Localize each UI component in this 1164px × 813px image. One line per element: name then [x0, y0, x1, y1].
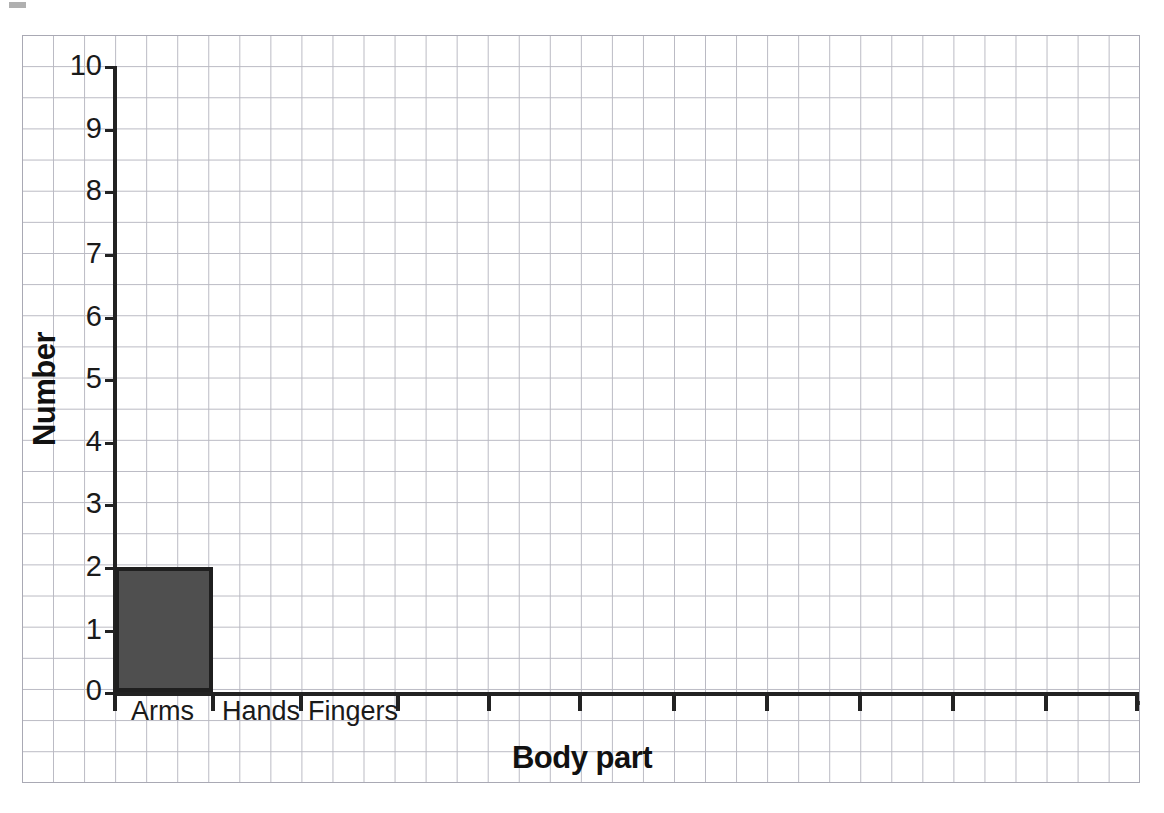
- y-tick-label-8: 8: [56, 176, 102, 205]
- bar-chart: 10 9 8 7 6 5 4 3 2 1 0 Arms Hands Finger…: [0, 0, 1164, 813]
- y-tick-label-0: 0: [56, 676, 102, 705]
- x-tick-8: [858, 694, 862, 711]
- y-axis-title: Number: [27, 304, 63, 474]
- y-tick-9: [105, 129, 114, 132]
- y-tick-6: [105, 317, 114, 320]
- y-tick-7: [105, 254, 114, 257]
- y-tick-label-9-wrap: 9: [52, 114, 102, 144]
- x-tick-1: [211, 694, 215, 711]
- category-label-hands: Hands: [222, 697, 300, 727]
- y-tick-label-2: 2: [56, 552, 102, 581]
- y-tick-5: [105, 379, 114, 382]
- y-tick-label-1: 1: [56, 615, 102, 644]
- y-tick-4: [105, 442, 114, 445]
- y-tick-label-2-wrap: 2: [52, 552, 102, 582]
- y-tick-10: [105, 66, 114, 69]
- x-tick-11: [1135, 694, 1139, 711]
- y-tick-label-7-wrap: 7: [52, 239, 102, 269]
- y-tick-label-0-wrap: 0: [52, 676, 102, 706]
- category-label-fingers: Fingers: [308, 697, 398, 727]
- y-tick-label-1-wrap: 1: [52, 615, 102, 645]
- y-tick-label-7: 7: [56, 239, 102, 268]
- y-tick-label-10-wrap: 10: [52, 51, 102, 81]
- category-label-arms: Arms: [131, 697, 194, 727]
- x-tick-10: [1044, 694, 1048, 711]
- y-tick-3: [105, 504, 114, 507]
- x-tick-5: [578, 694, 582, 711]
- y-tick-label-3: 3: [56, 489, 102, 518]
- x-axis-title: Body part: [0, 740, 1164, 776]
- x-tick-4: [487, 694, 491, 711]
- x-tick-9: [951, 694, 955, 711]
- x-tick-6: [672, 694, 676, 711]
- y-tick-label-9: 9: [56, 114, 102, 143]
- x-tick-7: [765, 694, 769, 711]
- y-tick-2: [105, 567, 114, 570]
- y-tick-label-10: 10: [56, 51, 102, 80]
- bar-arms[interactable]: [115, 567, 213, 692]
- y-tick-label-3-wrap: 3: [52, 489, 102, 519]
- y-tick-1: [105, 630, 114, 633]
- y-tick-label-8-wrap: 8: [52, 176, 102, 206]
- x-tick-0: [113, 694, 117, 711]
- y-tick-8: [105, 191, 114, 194]
